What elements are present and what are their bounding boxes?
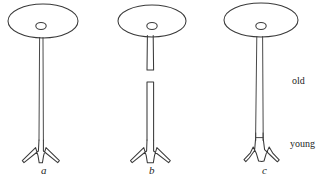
root-trident: [131, 140, 171, 163]
panel-label-b: b: [149, 165, 155, 176]
annotation-old: old: [292, 76, 305, 86]
root-trident: [244, 139, 279, 162]
stalk-upper-segment: [147, 36, 154, 70]
line-drawing: [0, 0, 326, 180]
stalk-lower-segment: [147, 82, 154, 140]
stalk-left-edge: [39, 38, 40, 141]
cap-ellipse: [118, 5, 186, 37]
stalk-right-edge: [263, 37, 264, 138]
nucleus-ellipse: [147, 23, 157, 30]
nucleus-ellipse: [256, 23, 266, 30]
cap-ellipse: [224, 3, 298, 37]
cap-ellipse: [8, 4, 78, 38]
figure-canvas: a b c old young: [0, 0, 326, 180]
panel-c-drawing: [224, 3, 298, 162]
root-trident: [22, 140, 59, 163]
nucleus-ellipse: [36, 23, 46, 30]
annotation-young: young: [290, 139, 315, 149]
panel-label-a: a: [41, 165, 47, 176]
stalk-left-edge: [256, 37, 257, 138]
panel-label-c: c: [262, 165, 267, 176]
panel-a-drawing: [8, 4, 78, 163]
panel-b-drawing: [118, 5, 186, 163]
